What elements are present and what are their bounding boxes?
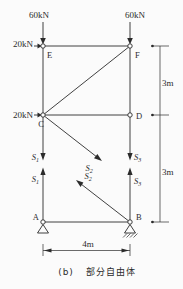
- stub-diagonal-upper: [43, 115, 97, 157]
- label-C: C: [38, 119, 44, 129]
- figure-caption: (b) 部分自由体: [58, 266, 136, 277]
- up-arrow-icon: [40, 168, 45, 176]
- hatch-line: [134, 234, 138, 238]
- force-sub: 1: [36, 157, 39, 163]
- dim-4m-label: 4m: [82, 239, 94, 249]
- upper-free-body-members: [43, 46, 130, 115]
- dim-tick-dot: [151, 45, 154, 48]
- support-B-pin: [123, 225, 138, 238]
- right-arrow-icon: [122, 249, 130, 253]
- load-20kn-top-label: 20kN: [13, 39, 34, 49]
- joint-F: [128, 44, 132, 48]
- caption-text: 部分自由体: [86, 266, 136, 277]
- label-A: A: [33, 212, 40, 222]
- cut-forces-upper: S1 S2 S3: [32, 115, 142, 174]
- pin-support-icon: [125, 225, 136, 234]
- stub-diagonal-lower: [82, 184, 131, 222]
- joint-A: [41, 220, 45, 224]
- dimension-right: 3m 3m: [151, 45, 174, 224]
- left-arrow-icon: [44, 249, 52, 253]
- dim-tick-dot: [151, 221, 154, 224]
- down-arrow-icon: [40, 153, 45, 161]
- force-sub: 3: [137, 181, 141, 187]
- force-s3-lower-label: S3: [134, 176, 141, 187]
- load-60kn-right-label: 60kN: [125, 10, 146, 20]
- force-sub: 3: [137, 157, 141, 163]
- load-60kn-right: 60kN: [125, 10, 146, 45]
- hatch-line: [130, 234, 134, 238]
- joint-D: [128, 113, 132, 117]
- joint-C: [41, 113, 45, 117]
- diagonal-arrow-icon: [76, 180, 83, 187]
- caption-index: (b): [58, 267, 74, 277]
- diagonal-arrow-icon: [94, 154, 102, 161]
- force-sub: 2: [90, 168, 93, 174]
- force-s1-upper-label: S1: [32, 152, 39, 163]
- pin-support-icon: [38, 225, 49, 234]
- hatch-line: [123, 234, 127, 238]
- truss-free-body-figure: 60kN 60kN 20kN 20kN S1 S2 S3: [0, 0, 183, 289]
- joints: [41, 44, 132, 224]
- dim-3m-lower-label: 3m: [162, 167, 174, 177]
- joint-E: [41, 44, 45, 48]
- load-60kn-left-label: 60kN: [29, 10, 50, 20]
- label-B: B: [136, 212, 142, 222]
- down-arrow-icon: [127, 153, 132, 161]
- force-sub: 1: [36, 179, 39, 185]
- label-E: E: [47, 50, 52, 60]
- dim-tick-dot: [151, 114, 154, 117]
- support-A-pin: [38, 225, 49, 234]
- member-FC-diagonal: [43, 46, 130, 115]
- free-body-diagram: 60kN 60kN 20kN 20kN S1 S2 S3: [0, 0, 183, 289]
- cut-forces-lower: S1 S2 S3: [32, 168, 142, 223]
- label-F: F: [135, 50, 140, 60]
- label-D: D: [136, 111, 142, 121]
- joint-B: [128, 220, 132, 224]
- force-sub: 2: [89, 176, 92, 182]
- dim-3m-upper-label: 3m: [162, 78, 174, 88]
- hatch-line: [127, 234, 131, 238]
- load-20kn-mid-label: 20kN: [13, 110, 34, 120]
- force-s1-lower-label: S1: [32, 174, 39, 185]
- joint-labels: E F C D A B: [33, 50, 142, 222]
- force-s3-upper-label: S3: [134, 152, 141, 163]
- up-arrow-icon: [127, 168, 132, 176]
- ground-hatch-icon: [123, 234, 138, 238]
- load-20kn-top: 20kN: [13, 39, 42, 49]
- dimension-bottom: 4m: [43, 239, 130, 256]
